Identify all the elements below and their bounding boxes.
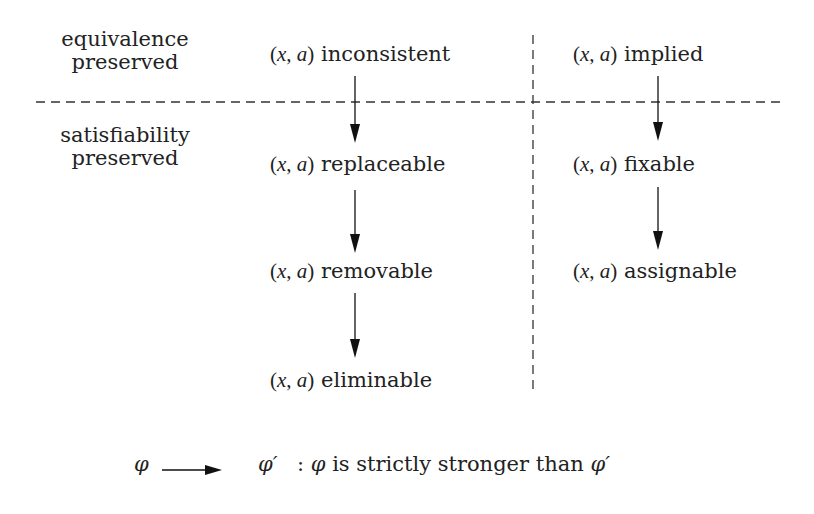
node-label: inconsistent xyxy=(321,42,450,66)
arrow-replaceable-to-removable xyxy=(350,190,360,253)
node-replaceable: (x, a) replaceable xyxy=(270,152,445,176)
legend-subject: φ xyxy=(311,452,326,476)
node-implied: (x, a) implied xyxy=(573,42,703,66)
node-fixable: (x, a) fixable xyxy=(573,152,695,176)
diagram-lines xyxy=(0,0,814,514)
pair-xa: (x, a) xyxy=(270,259,314,283)
pair-xa: (x, a) xyxy=(573,42,617,66)
arrow-fixable-to-assignable xyxy=(653,187,663,250)
pair-xa: (x, a) xyxy=(270,42,314,66)
node-label: fixable xyxy=(624,152,695,176)
node-removable: (x, a) removable xyxy=(270,259,433,283)
node-label: replaceable xyxy=(321,152,445,176)
legend-to: φ′ xyxy=(258,452,277,476)
legend-text: is strictly stronger than xyxy=(332,452,584,476)
pair-xa: (x, a) xyxy=(270,152,314,176)
node-inconsistent: (x, a) inconsistent xyxy=(270,42,450,66)
pair-xa: (x, a) xyxy=(573,259,617,283)
legend-from: φ xyxy=(134,452,149,476)
arrow-implied-to-fixable xyxy=(653,76,663,141)
node-label: eliminable xyxy=(321,368,432,392)
pair-xa: (x, a) xyxy=(270,368,314,392)
node-eliminable: (x, a) eliminable xyxy=(270,368,432,392)
legend-object: φ′ xyxy=(590,452,609,476)
node-label: removable xyxy=(321,259,433,283)
legend: φ φ′ : φ is strictly stronger than φ′ xyxy=(134,452,610,476)
legend-separator: : xyxy=(297,452,304,476)
node-label: assignable xyxy=(624,259,737,283)
node-assignable: (x, a) assignable xyxy=(573,259,737,283)
arrow-removable-to-eliminable xyxy=(350,293,360,358)
node-label: implied xyxy=(624,42,703,66)
arrow-inconsistent-to-replaceable xyxy=(350,76,360,143)
pair-xa: (x, a) xyxy=(573,152,617,176)
